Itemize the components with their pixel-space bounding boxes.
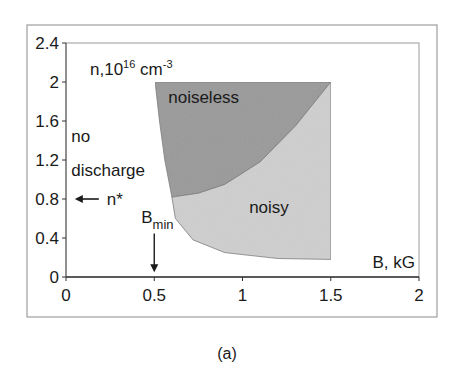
x-tick-label: 0.5 — [142, 286, 166, 305]
phase-diagram-chart: 00.511.5200.40.81.21.622.4 n,1016 cm-3B,… — [0, 0, 454, 340]
regions-layer — [155, 82, 331, 259]
y-tick-label: 2.4 — [35, 34, 59, 53]
x-tick-label: 1.5 — [319, 286, 343, 305]
y-axis-label: n,1016 cm-3 — [90, 58, 173, 79]
y-tick-label: 0.4 — [35, 229, 59, 248]
arrowhead-left-icon — [75, 195, 83, 203]
annotation-n-star: n* — [107, 190, 123, 209]
figure-caption: (a) — [0, 345, 454, 363]
y-tick-label: 2 — [50, 73, 59, 92]
y-tick-label: 1.2 — [35, 151, 59, 170]
x-tick-label: 1 — [238, 286, 247, 305]
annotation-b-min: Bmin — [141, 208, 173, 232]
arrowhead-down-icon — [150, 264, 158, 272]
annotation-noisy: noisy — [249, 198, 289, 217]
annotation-discharge: discharge — [71, 161, 145, 180]
annotation-noiseless: noiseless — [168, 88, 239, 107]
y-tick-label: 1.6 — [35, 112, 59, 131]
y-tick-label: 0 — [50, 268, 59, 287]
annotation-no: no — [71, 127, 90, 146]
x-axis-label: B, kG — [372, 253, 415, 272]
x-tick-label: 0 — [61, 286, 70, 305]
y-tick-label: 0.8 — [35, 190, 59, 209]
x-tick-label: 2 — [414, 286, 423, 305]
